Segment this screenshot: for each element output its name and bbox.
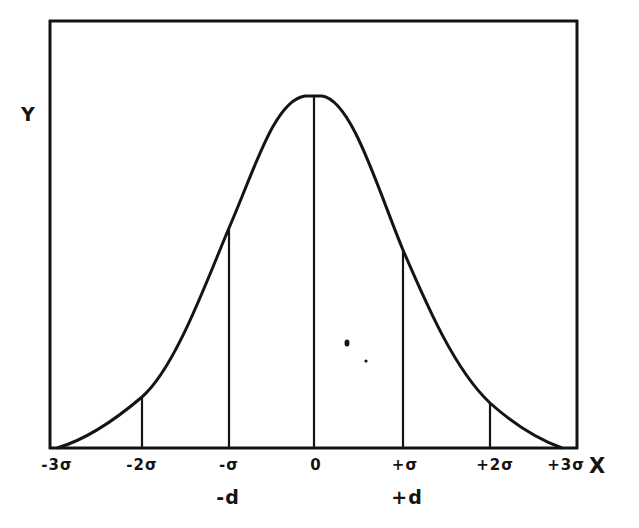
tick-label-minus-2-sigma: -2σ bbox=[126, 456, 157, 474]
scan-specks bbox=[345, 340, 368, 363]
x-axis-label: X bbox=[589, 454, 605, 478]
tick-label-plus-1-sigma: +σ bbox=[392, 456, 418, 474]
minus-d-label: -d bbox=[216, 486, 240, 508]
normal-curve-diagram bbox=[0, 0, 639, 528]
normal-curve bbox=[57, 96, 562, 448]
ordinate-lines bbox=[142, 95, 490, 448]
tick-label-minus-1-sigma: -σ bbox=[219, 456, 239, 474]
tick-label-plus-3-sigma: +3σ bbox=[547, 456, 585, 474]
plus-d-label: +d bbox=[391, 486, 423, 508]
y-axis-label: Y bbox=[21, 103, 35, 125]
tick-label-plus-2-sigma: +2σ bbox=[476, 456, 514, 474]
tick-label-minus-3-sigma: -3σ bbox=[41, 456, 72, 474]
tick-label-zero: 0 bbox=[310, 456, 321, 474]
